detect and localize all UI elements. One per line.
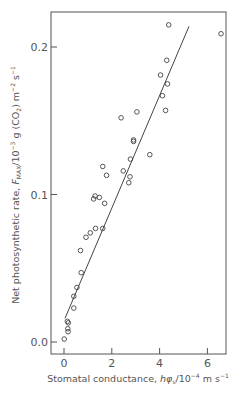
y-tick-label: 0.2 [31,41,49,54]
data-point [128,157,133,162]
x-axis-ticks: 0246 [61,348,211,370]
data-points [62,23,223,342]
data-point [93,226,98,231]
scatter-chart: 0.00.10.2 0246 Stomatal conductance, hφs… [0,0,242,402]
data-point [88,231,93,236]
x-axis-label: Stomatal conductance, hφs/10−4 m s−1 [47,372,229,385]
data-point [158,73,163,78]
data-point [121,169,126,174]
y-tick-label: 0.1 [31,189,49,202]
data-point [135,110,140,115]
data-point [165,82,170,87]
data-point [79,270,84,275]
data-point [97,195,102,200]
data-point [71,306,76,311]
data-point [128,175,133,180]
plot-frame [51,12,226,354]
x-tick-label: 4 [156,357,163,370]
data-point [102,201,107,206]
y-axis-ticks: 0.00.10.2 [31,41,58,349]
x-tick-label: 0 [61,357,68,370]
data-point [100,164,105,169]
data-point [164,58,169,63]
data-point [160,93,165,98]
data-point [84,235,89,240]
data-point [66,321,71,326]
regression-line [65,26,189,318]
y-tick-label: 0.0 [31,336,49,349]
data-point [66,326,71,331]
data-point [78,248,83,253]
y-axis-label: Net photosynthetic rate, FMAX/10−3 g (CO… [9,66,22,304]
data-point [148,152,153,157]
x-tick-label: 2 [108,357,115,370]
data-point [62,337,67,342]
data-point [219,31,224,36]
data-point [119,116,124,121]
data-point [166,23,171,28]
data-point [104,173,109,178]
x-tick-label: 6 [204,357,211,370]
data-point [163,108,168,113]
data-point [126,180,131,185]
